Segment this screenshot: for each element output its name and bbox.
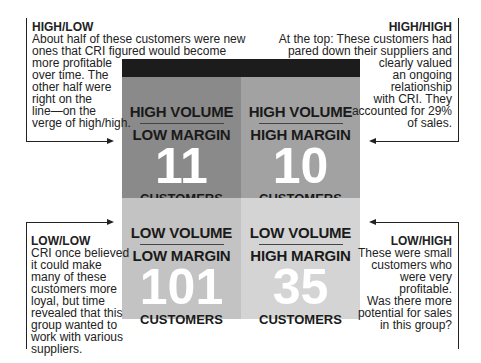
arrow-left-icon <box>369 138 376 144</box>
connector-line <box>375 141 459 142</box>
note-line: of sales. <box>279 117 452 129</box>
connector-line <box>26 222 27 349</box>
note-low-high: LOW/HIGH These were small customers who … <box>358 235 452 331</box>
volume-label: LOW VOLUME <box>122 224 241 241</box>
note-low-low: LOW/LOW CRI once believed it could make … <box>31 235 129 355</box>
connector-line <box>458 18 459 142</box>
connector-line <box>26 222 109 223</box>
quadrant-low-volume-low-margin: LOW VOLUME LOW MARGIN 101 CUSTOMERS <box>122 198 241 319</box>
quadrant-low-volume-high-margin: LOW VOLUME HIGH MARGIN 35 CUSTOMERS <box>241 198 360 319</box>
note-line: in this group? <box>358 319 452 331</box>
connector-line <box>458 222 459 349</box>
customer-count: 101 <box>122 264 241 310</box>
label-divider <box>140 244 224 245</box>
connector-line <box>26 18 27 142</box>
connector-line <box>375 222 459 223</box>
arrow-right-icon <box>107 219 114 225</box>
customers-label: CUSTOMERS <box>241 312 360 327</box>
label-divider <box>259 244 343 245</box>
arrow-left-icon <box>369 219 376 225</box>
customer-count: 35 <box>241 264 360 310</box>
note-line: suppliers. <box>31 343 129 355</box>
note-high-low: HIGH/LOW About half of these customers w… <box>32 21 245 129</box>
connector-line <box>26 141 109 142</box>
volume-label: LOW VOLUME <box>241 224 360 241</box>
customer-count: 11 <box>122 143 241 189</box>
customer-count: 10 <box>241 143 360 189</box>
note-line: verge of high/high. <box>32 117 245 129</box>
note-high-high: HIGH/HIGH At the top: These customers ha… <box>279 21 452 129</box>
arrow-right-icon <box>107 138 114 144</box>
customers-label: CUSTOMERS <box>122 312 241 327</box>
